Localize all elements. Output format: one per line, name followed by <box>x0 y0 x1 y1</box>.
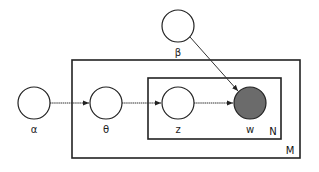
node-alpha-label: α <box>31 124 38 135</box>
node-z <box>162 87 194 119</box>
edge-beta-w <box>190 37 238 91</box>
node-beta <box>162 10 194 42</box>
node-beta-label: β <box>175 47 181 58</box>
node-w-label: w <box>246 124 254 135</box>
node-alpha <box>18 87 50 119</box>
node-theta-label: θ <box>103 124 109 135</box>
node-z-label: z <box>175 124 180 135</box>
plate-diagram: M N α θ z w β <box>0 0 319 172</box>
plate-m-label: M <box>286 145 295 156</box>
node-theta <box>90 87 122 119</box>
plate-n-label: N <box>269 126 276 137</box>
node-w-observed <box>234 87 266 119</box>
